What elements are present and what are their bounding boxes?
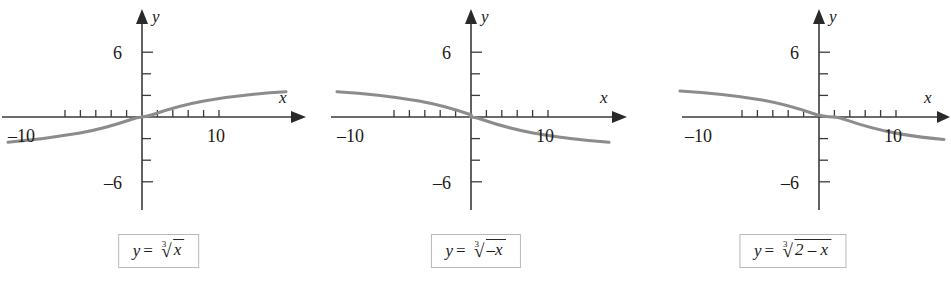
formula-equals: = [140,241,156,260]
graph-panel-1: x y –10 10 6 –6 y=3√x [0,0,317,299]
x-tick-label-10: 10 [536,126,554,146]
formula-lhs: y [754,241,762,260]
radical-expression: 3√2 – x [777,240,831,259]
formula-equals: = [453,241,469,260]
x-tick-label-neg10: –10 [336,126,364,146]
plot-area-2: x y –10 10 6 –6 [317,0,634,225]
formula-2: y=3√–x [445,240,505,259]
y-tick-label-neg6: –6 [103,173,122,193]
formula-lhs: y [445,241,453,260]
x-tick-label-10: 10 [884,126,902,146]
function-curve-left [337,92,472,117]
y-tick-label-neg6: –6 [432,173,451,193]
y-axis-label: y [150,7,160,26]
graph-panel-2: x y –10 10 6 –6 y=3√–x [317,0,634,299]
y-tick-label-6: 6 [113,43,122,63]
formula-box-3: y=3√2 – x [739,234,846,268]
x-axis-label: x [599,88,608,107]
formula-1: y=3√x [133,240,185,259]
x-tick-label-neg10: –10 [7,126,35,146]
y-axis-label: y [827,7,837,26]
x-axis-label: x [278,88,287,107]
radicand: –x [486,239,506,258]
y-axis-label: y [479,7,489,26]
y-tick-label-6: 6 [790,43,799,63]
radical-sign-icon: √ [161,240,171,261]
formula-3: y=3√2 – x [754,240,831,259]
coordinate-plane-2: x y –10 10 6 –6 [317,0,634,225]
plot-area-3: x y –10 10 6 –6 [634,0,951,225]
x-tick-label-10: 10 [207,126,225,146]
radicand: x [173,239,185,258]
formula-equals: = [761,241,777,260]
y-tick-label-6: 6 [442,43,451,63]
plot-area-1: x y –10 10 6 –6 [0,0,317,225]
radical-expression: 3√–x [469,240,506,259]
coordinate-plane-1: x y –10 10 6 –6 [0,0,317,225]
x-axis-label: x [923,88,932,107]
radical-expression: 3√x [156,240,184,259]
radicand: 2 – x [794,239,831,258]
y-tick-label-neg6: –6 [780,173,799,193]
formula-box-1: y=3√x [118,234,200,268]
radical-sign-icon: √ [474,240,484,261]
x-tick-label-neg10: –10 [684,126,712,146]
formula-box-2: y=3√–x [430,234,520,268]
x-axis-arrow-icon [291,111,306,123]
y-axis-arrow-icon [465,9,477,24]
graph-panel-3: x y –10 10 6 –6 y=3√2 – x [634,0,951,299]
graphs-figure: x y –10 10 6 –6 y=3√x [0,0,951,299]
y-axis-arrow-icon [813,9,825,24]
function-curve-right [142,92,286,117]
coordinate-plane-3: x y –10 10 6 –6 [634,0,951,225]
radical-sign-icon: √ [783,240,793,261]
formula-lhs: y [133,241,141,260]
x-axis-arrow-icon [937,111,950,123]
x-axis-arrow-icon [612,111,627,123]
y-axis-arrow-icon [136,9,148,24]
